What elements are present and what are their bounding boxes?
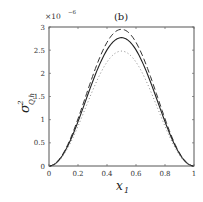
y-multiplier-exponent: −6	[68, 9, 77, 15]
x-tick-label: 0	[47, 170, 51, 178]
x-tick-label: 0.4	[101, 170, 113, 178]
y-tick-label: 0	[41, 163, 45, 171]
x-tick-label: 0.6	[130, 170, 142, 178]
y-tick-label: 1	[41, 116, 45, 124]
plot-area	[49, 27, 194, 166]
x-tick-label: 0.8	[159, 170, 170, 178]
chart-title: (b)	[114, 11, 128, 22]
x-tick-label: 1	[192, 170, 196, 178]
series-solid-line	[49, 38, 194, 166]
svg-text:1: 1	[124, 186, 129, 195]
axis-ticks	[49, 27, 194, 166]
svg-text:x: x	[116, 179, 123, 193]
chart: 00.20.40.60.8100.511.522.53 (b) ×10 −6 x…	[0, 0, 203, 202]
y-axis-label: σ 2 Q,h	[17, 93, 36, 113]
y-tick-label: 0.5	[34, 139, 45, 147]
y-multiplier: ×10	[45, 12, 61, 21]
svg-text:Q,h: Q,h	[28, 93, 36, 105]
y-tick-label: 2.5	[34, 47, 45, 55]
y-tick-label: 2	[41, 70, 45, 78]
series-dashed-line	[49, 29, 194, 166]
svg-text:2: 2	[17, 100, 25, 106]
x-tick-label: 0.2	[72, 170, 83, 178]
series-dotted-line	[49, 51, 194, 166]
x-axis-label: x 1	[116, 179, 129, 195]
data-series	[49, 29, 194, 166]
tick-labels: 00.20.40.60.8100.511.522.53	[34, 24, 196, 179]
y-tick-label: 3	[41, 24, 45, 32]
